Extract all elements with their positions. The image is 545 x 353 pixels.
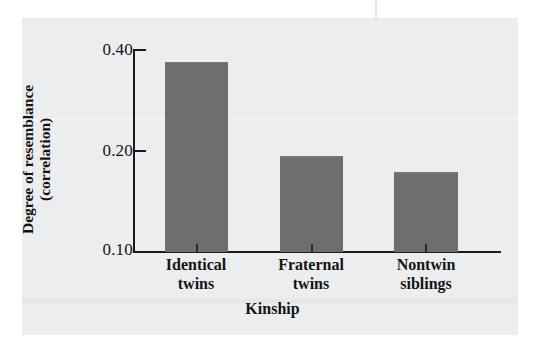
x-tick-label-fraternal-twins-line-2: twins [246,275,376,294]
y-tick-label-040: 0.40 [59,40,133,60]
x-tick-label-fraternal-twins: Fraternal twins [246,256,376,293]
bar-nontwin-siblings [394,172,458,252]
x-tick-mark-fraternal-twins [311,244,313,252]
x-axis-title: Kinship [0,300,545,318]
x-tick-label-nontwin-siblings-line-2: siblings [361,275,491,294]
x-tick-label-fraternal-twins-line-1: Fraternal [246,256,376,275]
x-tick-label-nontwin-siblings: Nontwin siblings [361,256,491,293]
x-tick-label-identical-twins-line-1: Identical [131,256,261,275]
y-tick-mark-040 [135,49,146,51]
x-tick-label-nontwin-siblings-line-1: Nontwin [361,256,491,275]
y-tick-label-020: 0.20 [59,141,133,161]
x-tick-mark-nontwin-siblings [425,244,427,252]
x-tick-label-identical-twins-line-2: twins [131,275,261,294]
x-tick-label-identical-twins: Identical twins [131,256,261,293]
y-axis-title: Degree of resemblance (correlation) [19,59,54,259]
y-axis-title-line-1: Degree of resemblance [19,85,36,234]
y-axis-title-line-2: (correlation) [36,118,53,201]
y-tick-mark-020 [135,150,146,152]
x-tick-mark-identical-twins [196,244,198,252]
bar-chart: Degree of resemblance (correlation) 0.40… [0,0,545,353]
y-tick-label-010: 0.10 [59,240,133,260]
bar-fraternal-twins [280,156,343,252]
bar-identical-twins [165,62,228,252]
